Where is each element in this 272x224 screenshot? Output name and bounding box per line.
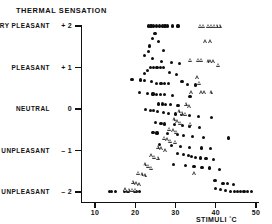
data-point-filled-circle	[227, 136, 230, 139]
x-axis-tick	[135, 202, 136, 208]
data-point-filled-circle	[200, 166, 203, 169]
data-point-filled-circle	[219, 188, 222, 191]
x-axis-tick-label: 20	[123, 209, 147, 216]
data-point-open-triangle	[216, 63, 220, 67]
data-point-open-triangle	[143, 173, 147, 177]
data-point-filled-circle	[163, 82, 166, 85]
data-point-filled-circle	[161, 102, 164, 105]
y-axis-category-label: NEUTRAL	[0, 105, 50, 112]
data-point-filled-circle	[187, 154, 190, 157]
data-point-filled-circle	[178, 62, 181, 65]
data-point-open-triangle	[206, 24, 210, 28]
data-point-filled-circle	[190, 155, 193, 158]
data-point-open-triangle	[188, 58, 192, 62]
data-point-filled-circle	[180, 80, 183, 83]
data-point-filled-circle	[175, 73, 178, 76]
data-point-open-triangle	[163, 148, 167, 152]
data-point-filled-circle	[204, 157, 207, 160]
data-point-open-triangle	[192, 171, 196, 175]
data-point-filled-circle	[229, 190, 232, 193]
data-point-filled-circle	[176, 133, 179, 136]
y-axis-tick-label: 0	[52, 105, 72, 112]
x-axis-tick	[215, 202, 216, 208]
data-point-open-triangle	[134, 181, 138, 185]
y-axis-tick	[75, 108, 82, 109]
data-point-filled-circle	[154, 121, 157, 124]
data-point-filled-circle	[236, 190, 239, 193]
data-point-open-triangle	[127, 188, 131, 192]
y-axis-line	[81, 26, 82, 203]
data-point-filled-circle	[157, 40, 160, 43]
data-point-open-triangle	[199, 90, 203, 94]
data-point-open-triangle	[198, 24, 202, 28]
x-axis-tick	[255, 202, 256, 208]
data-point-filled-circle	[158, 143, 161, 146]
data-point-filled-circle	[138, 91, 141, 94]
data-point-filled-circle	[194, 156, 197, 159]
x-axis-tick-label: 10	[83, 209, 107, 216]
data-point-filled-circle	[224, 189, 227, 192]
data-point-filled-circle	[157, 102, 160, 105]
data-point-open-triangle	[208, 59, 212, 63]
y-axis-tick	[75, 150, 82, 151]
data-point-filled-circle	[176, 24, 179, 27]
x-axis-tick	[175, 202, 176, 208]
y-axis-tick-label: – 2	[52, 188, 72, 195]
data-point-open-triangle	[212, 24, 216, 28]
data-point-filled-circle	[212, 158, 215, 161]
data-point-open-triangle	[199, 58, 203, 62]
data-point-open-triangle	[215, 24, 219, 28]
data-point-filled-circle	[162, 111, 165, 114]
data-point-filled-circle	[209, 147, 212, 150]
data-point-filled-circle	[169, 103, 172, 106]
data-point-open-triangle	[146, 164, 150, 168]
data-point-open-triangle	[159, 146, 163, 150]
data-point-open-triangle	[195, 75, 199, 79]
data-point-filled-circle	[191, 135, 194, 138]
y-axis-tick	[75, 67, 82, 68]
data-point-filled-circle	[159, 93, 162, 96]
data-point-filled-circle	[151, 57, 154, 60]
data-point-filled-circle	[188, 114, 191, 117]
data-point-filled-circle	[151, 37, 154, 40]
data-point-filled-circle	[214, 187, 217, 190]
data-point-filled-circle	[147, 24, 150, 27]
data-point-open-triangle	[172, 117, 176, 121]
data-point-filled-circle	[133, 190, 136, 193]
x-axis-unit: °C	[227, 216, 237, 223]
x-axis-tick-label: 30	[164, 209, 188, 216]
y-axis-category-label: VERY UNPLEASANT	[0, 188, 50, 195]
data-point-open-triangle	[184, 102, 188, 106]
data-point-filled-circle	[221, 182, 224, 185]
data-point-filled-circle	[182, 153, 185, 156]
data-point-filled-circle	[144, 108, 147, 111]
data-point-filled-circle	[213, 179, 216, 182]
data-point-open-triangle	[201, 24, 205, 28]
data-point-filled-circle	[108, 190, 111, 193]
data-point-filled-circle	[181, 124, 184, 127]
data-point-filled-circle	[171, 24, 174, 27]
data-point-open-triangle	[175, 119, 179, 123]
data-point-filled-circle	[170, 61, 173, 64]
data-point-open-triangle	[149, 166, 153, 170]
data-point-filled-circle	[155, 82, 158, 85]
data-point-filled-circle	[143, 54, 146, 57]
data-point-filled-circle	[188, 125, 191, 128]
data-point-filled-circle	[138, 190, 141, 193]
y-axis-tick-label: + 1	[52, 64, 72, 71]
data-point-open-triangle	[133, 188, 137, 192]
data-point-filled-circle	[163, 24, 166, 27]
data-point-open-triangle	[152, 155, 156, 159]
data-point-open-triangle	[203, 39, 207, 43]
data-point-open-triangle	[206, 59, 210, 63]
x-axis-tick	[94, 202, 95, 208]
thermal-sensation-scatter-figure: THERMAL SENSATION + 2VERY PLEASANT+ 1PLE…	[0, 0, 272, 224]
data-point-filled-circle	[199, 156, 202, 159]
data-point-open-triangle	[156, 145, 160, 149]
data-point-filled-circle	[208, 166, 211, 169]
y-axis-tick-label: – 1	[52, 147, 72, 154]
data-point-filled-circle	[174, 112, 177, 115]
data-point-filled-circle	[188, 146, 191, 149]
data-point-filled-circle	[172, 163, 175, 166]
data-point-filled-circle	[143, 72, 146, 75]
